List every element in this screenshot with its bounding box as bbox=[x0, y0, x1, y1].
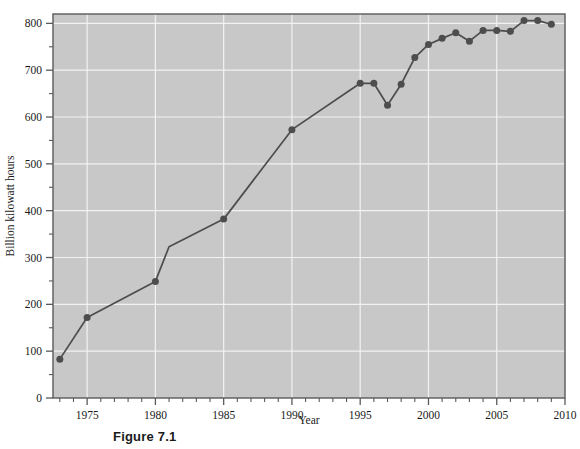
y-axis-title: Billion kilowatt hours bbox=[4, 155, 16, 256]
data-point-marker bbox=[384, 102, 391, 109]
data-point-marker bbox=[507, 28, 514, 35]
data-point-marker bbox=[480, 27, 487, 34]
y-tick-label: 0 bbox=[36, 392, 42, 404]
data-point-marker bbox=[452, 29, 459, 36]
x-tick-label: 1975 bbox=[76, 409, 99, 421]
x-tick-label: 1995 bbox=[349, 409, 372, 421]
y-tick-label: 800 bbox=[25, 17, 43, 29]
data-point-marker bbox=[466, 38, 473, 45]
x-tick-label: 2010 bbox=[554, 409, 577, 421]
plot-area-background bbox=[53, 14, 565, 398]
figure-caption: Figure 7.1 bbox=[113, 429, 176, 444]
data-point-marker bbox=[220, 216, 227, 223]
data-point-marker bbox=[398, 81, 405, 88]
line-chart: 0100200300400500600700800197519801985199… bbox=[0, 0, 580, 449]
data-point-marker bbox=[439, 35, 446, 42]
data-point-marker bbox=[56, 356, 63, 363]
x-tick-label: 1980 bbox=[144, 409, 167, 421]
data-point-marker bbox=[370, 80, 377, 87]
data-point-marker bbox=[288, 126, 295, 133]
y-tick-label: 400 bbox=[25, 205, 43, 217]
data-point-marker bbox=[411, 54, 418, 61]
y-tick-label: 200 bbox=[25, 298, 43, 310]
y-tick-label: 600 bbox=[25, 111, 43, 123]
y-tick-label: 300 bbox=[25, 252, 43, 264]
data-point-marker bbox=[357, 80, 364, 87]
x-axis-title: Year bbox=[298, 414, 319, 426]
data-point-marker bbox=[152, 278, 159, 285]
x-tick-label: 2000 bbox=[417, 409, 440, 421]
data-point-marker bbox=[493, 27, 500, 34]
figure-container: 0100200300400500600700800197519801985199… bbox=[0, 0, 580, 449]
data-point-marker bbox=[534, 17, 541, 24]
data-point-marker bbox=[548, 21, 555, 28]
y-tick-label: 700 bbox=[25, 64, 43, 76]
x-tick-label: 2005 bbox=[485, 409, 508, 421]
y-tick-label: 500 bbox=[25, 158, 43, 170]
data-point-marker bbox=[521, 17, 528, 24]
y-tick-label: 100 bbox=[25, 345, 43, 357]
x-tick-label: 1985 bbox=[212, 409, 235, 421]
data-point-marker bbox=[84, 314, 91, 321]
data-point-marker bbox=[425, 41, 432, 48]
